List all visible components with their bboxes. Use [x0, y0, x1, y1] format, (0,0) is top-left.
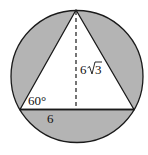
- svg-text:3: 3: [95, 62, 102, 77]
- svg-text:6: 6: [80, 62, 87, 77]
- base-half-label: 6: [47, 111, 54, 126]
- diagram-canvas: 60° 6 6 3: [0, 0, 148, 155]
- angle-label: 60°: [28, 93, 46, 108]
